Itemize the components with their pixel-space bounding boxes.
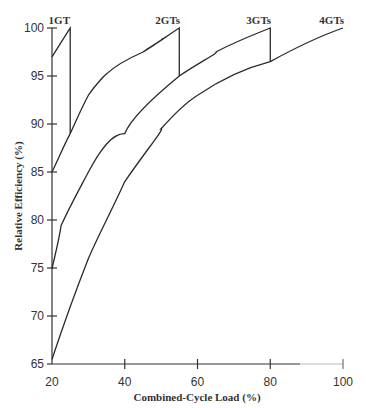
y-tick-label: 65 <box>31 357 45 371</box>
series-label-4gts: 4GTs <box>319 14 344 26</box>
series-label-1gt: 1GT <box>49 14 71 26</box>
y-tick-label: 90 <box>31 117 45 131</box>
series-1gt-curve <box>52 28 70 134</box>
x-tick-labels: 20 40 60 80 100 <box>45 375 353 389</box>
y-tick-label: 85 <box>31 165 45 179</box>
x-tick-label: 40 <box>118 375 132 389</box>
series-2gts-curve <box>52 28 179 172</box>
x-tick-label: 60 <box>191 375 205 389</box>
x-tick-label: 80 <box>264 375 278 389</box>
series-3gts-curve <box>52 28 270 269</box>
series-4gts-curve <box>52 28 343 359</box>
y-tick-labels: 100 95 90 85 80 75 70 65 <box>24 21 44 371</box>
x-axis-title: Combined-Cycle Load (%) <box>133 391 260 404</box>
x-tick-label: 100 <box>333 375 353 389</box>
y-tick-label: 95 <box>31 69 45 83</box>
x-tick-label: 20 <box>45 375 59 389</box>
efficiency-chart: 100 95 90 85 80 75 70 65 20 40 60 80 100… <box>0 0 366 408</box>
y-tick-label: 100 <box>24 21 44 35</box>
y-axis-title: Relative Efficiency (%) <box>12 141 25 251</box>
series-label-2gts: 2GTs <box>155 14 180 26</box>
y-tick-label: 70 <box>31 309 45 323</box>
series-label-3gts: 3GTs <box>246 14 271 26</box>
y-tick-label: 75 <box>31 261 45 275</box>
y-tick-label: 80 <box>31 213 45 227</box>
